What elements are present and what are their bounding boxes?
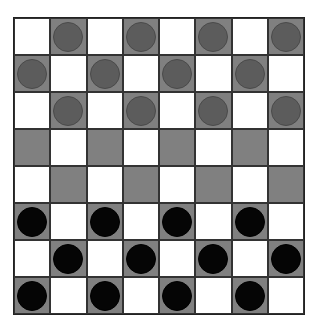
board-square-r7-c4[interactable] <box>159 277 195 314</box>
board-square-r0-c5[interactable] <box>195 18 231 55</box>
black-checker-piece[interactable] <box>17 207 47 237</box>
board-square-r3-c6[interactable] <box>232 129 268 166</box>
board-square-r6-c7[interactable] <box>268 240 304 277</box>
black-checker-piece[interactable] <box>162 207 192 237</box>
black-checker-piece[interactable] <box>17 281 47 311</box>
board-square-r6-c0[interactable] <box>14 240 50 277</box>
board-square-r3-c1[interactable] <box>50 129 86 166</box>
gray-checker-piece[interactable] <box>162 59 192 89</box>
gray-checker-piece[interactable] <box>198 22 228 52</box>
black-checker-piece[interactable] <box>235 281 265 311</box>
board-square-r2-c0[interactable] <box>14 92 50 129</box>
board-square-r6-c4[interactable] <box>159 240 195 277</box>
board-square-r0-c3[interactable] <box>123 18 159 55</box>
board-square-r2-c2[interactable] <box>87 92 123 129</box>
black-checker-piece[interactable] <box>90 281 120 311</box>
board-square-r3-c3[interactable] <box>123 129 159 166</box>
gray-checker-piece[interactable] <box>126 22 156 52</box>
board-square-r4-c1[interactable] <box>50 166 86 203</box>
black-checker-piece[interactable] <box>126 244 156 274</box>
board-square-r0-c0[interactable] <box>14 18 50 55</box>
board-square-r1-c5[interactable] <box>195 55 231 92</box>
board-square-r4-c6[interactable] <box>232 166 268 203</box>
board-square-r7-c3[interactable] <box>123 277 159 314</box>
board-square-r1-c0[interactable] <box>14 55 50 92</box>
board-square-r7-c0[interactable] <box>14 277 50 314</box>
board-square-r6-c6[interactable] <box>232 240 268 277</box>
gray-checker-piece[interactable] <box>90 59 120 89</box>
gray-checker-piece[interactable] <box>53 96 83 126</box>
board-square-r0-c6[interactable] <box>232 18 268 55</box>
board-square-r6-c2[interactable] <box>87 240 123 277</box>
board-square-r3-c5[interactable] <box>195 129 231 166</box>
board-square-r2-c7[interactable] <box>268 92 304 129</box>
board-square-r6-c3[interactable] <box>123 240 159 277</box>
board-square-r3-c0[interactable] <box>14 129 50 166</box>
board-square-r4-c2[interactable] <box>87 166 123 203</box>
board-square-r5-c2[interactable] <box>87 203 123 240</box>
gray-checker-piece[interactable] <box>271 22 301 52</box>
board-square-r5-c1[interactable] <box>50 203 86 240</box>
board-square-r2-c1[interactable] <box>50 92 86 129</box>
board-square-r2-c3[interactable] <box>123 92 159 129</box>
board-square-r1-c6[interactable] <box>232 55 268 92</box>
board-square-r6-c5[interactable] <box>195 240 231 277</box>
gray-checker-piece[interactable] <box>17 59 47 89</box>
board-square-r5-c0[interactable] <box>14 203 50 240</box>
board-square-r1-c1[interactable] <box>50 55 86 92</box>
checkers-board <box>13 17 305 315</box>
black-checker-piece[interactable] <box>235 207 265 237</box>
board-square-r2-c4[interactable] <box>159 92 195 129</box>
board-square-r7-c7[interactable] <box>268 277 304 314</box>
black-checker-piece[interactable] <box>90 207 120 237</box>
board-square-r5-c7[interactable] <box>268 203 304 240</box>
black-checker-piece[interactable] <box>53 244 83 274</box>
board-square-r5-c4[interactable] <box>159 203 195 240</box>
board-square-r2-c6[interactable] <box>232 92 268 129</box>
board-square-r1-c2[interactable] <box>87 55 123 92</box>
board-square-r5-c5[interactable] <box>195 203 231 240</box>
board-square-r6-c1[interactable] <box>50 240 86 277</box>
board-square-r4-c3[interactable] <box>123 166 159 203</box>
board-square-r7-c2[interactable] <box>87 277 123 314</box>
board-square-r5-c6[interactable] <box>232 203 268 240</box>
gray-checker-piece[interactable] <box>126 96 156 126</box>
gray-checker-piece[interactable] <box>271 96 301 126</box>
board-square-r1-c3[interactable] <box>123 55 159 92</box>
board-square-r3-c4[interactable] <box>159 129 195 166</box>
gray-checker-piece[interactable] <box>198 96 228 126</box>
board-square-r1-c4[interactable] <box>159 55 195 92</box>
board-square-r0-c4[interactable] <box>159 18 195 55</box>
board-square-r5-c3[interactable] <box>123 203 159 240</box>
gray-checker-piece[interactable] <box>235 59 265 89</box>
black-checker-piece[interactable] <box>162 281 192 311</box>
board-square-r4-c0[interactable] <box>14 166 50 203</box>
black-checker-piece[interactable] <box>271 244 301 274</box>
board-square-r7-c6[interactable] <box>232 277 268 314</box>
board-square-r7-c5[interactable] <box>195 277 231 314</box>
board-square-r0-c1[interactable] <box>50 18 86 55</box>
board-square-r4-c4[interactable] <box>159 166 195 203</box>
black-checker-piece[interactable] <box>198 244 228 274</box>
board-square-r0-c2[interactable] <box>87 18 123 55</box>
board-square-r1-c7[interactable] <box>268 55 304 92</box>
board-square-r3-c7[interactable] <box>268 129 304 166</box>
board-square-r0-c7[interactable] <box>268 18 304 55</box>
board-square-r7-c1[interactable] <box>50 277 86 314</box>
board-square-r3-c2[interactable] <box>87 129 123 166</box>
board-square-r2-c5[interactable] <box>195 92 231 129</box>
board-square-r4-c7[interactable] <box>268 166 304 203</box>
gray-checker-piece[interactable] <box>53 22 83 52</box>
board-square-r4-c5[interactable] <box>195 166 231 203</box>
